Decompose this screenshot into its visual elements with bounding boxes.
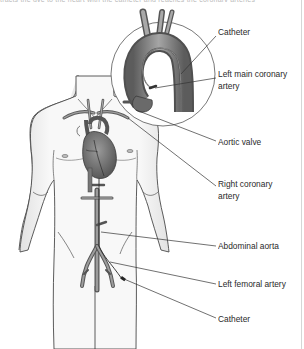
label-left-femoral-artery: Left femoral artery — [218, 278, 286, 289]
label-left-main-coronary-artery: Left main coronary — [218, 68, 287, 79]
label-abdominal-aorta: Abdominal aorta — [218, 240, 279, 251]
label-catheter-top: Catheter — [218, 26, 250, 37]
label-left-main-coronary-artery-line2: artery — [218, 80, 239, 91]
label-right-coronary-artery: Right coronary — [218, 178, 272, 189]
label-aortic-valve: Aortic valve — [218, 136, 261, 147]
illustration — [0, 0, 304, 349]
label-catheter-bottom: Catheter — [218, 313, 250, 324]
label-right-coronary-artery-line2: artery — [218, 190, 239, 201]
aortic-arch-inset — [111, 12, 215, 126]
